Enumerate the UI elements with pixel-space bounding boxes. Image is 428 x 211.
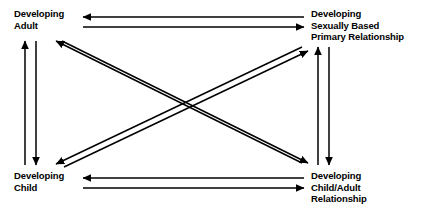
relationship-diagram: Developing Adult Developing Sexually Bas… [0,0,428,211]
node-sexually-based-primary-relationship: Developing Sexually Based Primary Relati… [311,8,404,43]
edge-top-pair [83,17,304,27]
node-developing-adult: Developing Adult [14,8,64,31]
edge-right-pair [318,47,329,165]
edge-diagonal-nwse-pair [56,41,308,163]
edge-left-pair [25,41,36,165]
node-developing-child-adult-relationship: Developing Child/Adult Relationship [311,170,367,205]
edge-bottom-pair [83,178,304,188]
edge-diagonal-swne-pair [56,47,308,167]
node-developing-child: Developing Child [14,170,64,193]
